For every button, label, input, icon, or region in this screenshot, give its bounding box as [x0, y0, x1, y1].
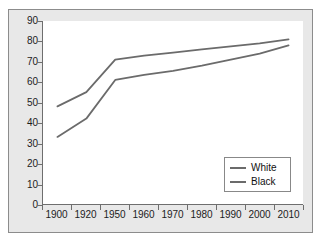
y-tick-label: 90 — [16, 16, 38, 26]
x-tick-mark — [100, 205, 101, 210]
legend-line-swatch — [230, 167, 246, 169]
x-tick-mark — [216, 205, 217, 210]
x-tick-mark — [129, 205, 130, 210]
y-tick-label: 10 — [16, 180, 38, 190]
y-tick-label: 20 — [16, 159, 38, 169]
legend-line-swatch — [230, 181, 246, 183]
chart-legend: WhiteBlack — [224, 157, 291, 192]
series-line-white — [57, 39, 288, 106]
y-tick-label: 30 — [16, 139, 38, 149]
x-tick-mark — [71, 205, 72, 210]
legend-label: Black — [251, 176, 275, 187]
x-tick-mark — [274, 205, 275, 210]
legend-item-black[interactable]: Black — [230, 175, 275, 188]
legend-label: White — [251, 162, 277, 173]
y-tick-label: 60 — [16, 77, 38, 87]
y-tick-label: 40 — [16, 118, 38, 128]
y-tick-label: 70 — [16, 57, 38, 67]
x-tick-label: 2010 — [269, 209, 309, 220]
y-tick-label: 80 — [16, 36, 38, 46]
x-tick-mark — [42, 205, 43, 210]
x-tick-mark — [158, 205, 159, 210]
x-tick-mark — [245, 205, 246, 210]
legend-item-white[interactable]: White — [230, 161, 277, 174]
chart-figure: 0102030405060708090 19001920195019601970… — [8, 9, 313, 233]
x-tick-mark — [303, 205, 304, 210]
x-tick-mark — [187, 205, 188, 210]
y-tick-label: 50 — [16, 98, 38, 108]
y-tick-label: 0 — [16, 200, 38, 210]
series-line-black — [57, 45, 288, 137]
